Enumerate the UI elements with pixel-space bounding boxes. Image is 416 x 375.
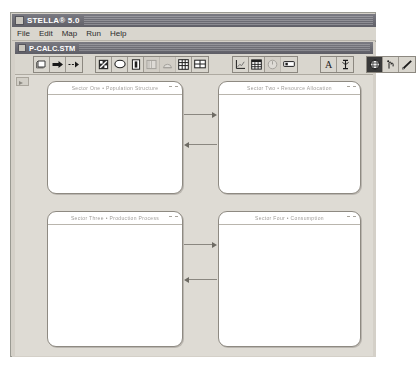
- sector-bottom-right-title: Sector Four • Consumption: [255, 216, 324, 221]
- menu-item-file[interactable]: File: [17, 30, 30, 38]
- sector-bottom-left-title: Sector Three • Production Process: [71, 216, 159, 221]
- sector-top-left[interactable]: Sector One • Population Structure: [47, 81, 183, 194]
- connector-bottom-forward-arrowhead: [212, 242, 217, 248]
- toolbar-group-object-tools: [95, 56, 209, 73]
- text-cursor-icon[interactable]: [337, 57, 353, 72]
- window-menu-button[interactable]: [15, 16, 24, 25]
- sector-top-right-handles[interactable]: [347, 86, 356, 87]
- menu-item-map[interactable]: Map: [62, 30, 78, 38]
- conveyor-icon[interactable]: [128, 57, 144, 72]
- sector-top-left-title: Sector One • Population Structure: [72, 86, 159, 91]
- queue-icon[interactable]: [144, 57, 160, 72]
- sector-bottom-right-body[interactable]: [219, 225, 360, 346]
- flow-arrow-icon[interactable]: [50, 57, 66, 72]
- sector-top-right-title: Sector Two • Resource Allocation: [247, 86, 332, 91]
- globe-hand-icon[interactable]: [367, 57, 383, 72]
- sector-top-right[interactable]: Sector Two • Resource Allocation: [218, 81, 361, 194]
- sector-bottom-left-handles[interactable]: [169, 216, 178, 217]
- connector-bottom-reverse[interactable]: [184, 276, 217, 283]
- connector-top-reverse[interactable]: [184, 141, 217, 148]
- oven-icon[interactable]: [160, 57, 176, 72]
- ruler-tab-icon[interactable]: [16, 77, 29, 86]
- document-menu-button[interactable]: [18, 44, 26, 52]
- sector-top-right-body[interactable]: [219, 95, 360, 193]
- hand-grab-icon[interactable]: [383, 57, 399, 72]
- toolbar-group-pointer-tools: [366, 56, 416, 73]
- document-window: P-CALC.STM: [12, 42, 376, 357]
- title-bar-texture: [84, 16, 373, 25]
- stock-icon[interactable]: [34, 57, 50, 72]
- sector-bottom-right-handles[interactable]: [347, 216, 356, 217]
- graph-pad-icon[interactable]: [233, 57, 249, 72]
- connector-top-forward-arrowhead: [212, 112, 217, 118]
- connector-top-reverse-shaft: [189, 144, 217, 145]
- menu-item-edit[interactable]: Edit: [39, 30, 53, 38]
- svg-text:A: A: [325, 59, 333, 70]
- toolbar-group-annotation-tools: A: [320, 56, 354, 73]
- sector-top-left-body[interactable]: [48, 95, 182, 193]
- menu-item-help[interactable]: Help: [110, 30, 126, 38]
- document-title: P-CALC.STM: [29, 44, 75, 53]
- table-pad-icon[interactable]: [249, 57, 265, 72]
- sector-top-left-handles[interactable]: [169, 86, 178, 87]
- connector-bottom-forward[interactable]: [184, 241, 217, 248]
- menu-bar: File Edit Map Run Help: [12, 27, 376, 41]
- text-tool-icon[interactable]: A: [321, 57, 337, 72]
- sector-frame-icon[interactable]: [96, 57, 112, 72]
- grid-icon[interactable]: [176, 57, 192, 72]
- application-window: STELLA® 5.0 File Edit Map Run Help P-CAL…: [10, 12, 376, 357]
- converter-oval-icon[interactable]: [112, 57, 128, 72]
- model-map-canvas[interactable]: Sector One • Population Structure Sector…: [15, 75, 373, 356]
- sector-top-left-header[interactable]: Sector One • Population Structure: [48, 82, 182, 95]
- sector-bottom-left-body[interactable]: [48, 225, 182, 346]
- sector-bottom-left-header[interactable]: Sector Three • Production Process: [48, 212, 182, 225]
- application-title-bar[interactable]: STELLA® 5.0: [12, 14, 376, 27]
- dial-knob-icon[interactable]: [265, 57, 281, 72]
- sector-bottom-left[interactable]: Sector Three • Production Process: [47, 211, 183, 347]
- document-title-bar[interactable]: P-CALC.STM: [15, 42, 373, 54]
- slider-icon[interactable]: [281, 57, 297, 72]
- toolbar: A: [15, 54, 373, 75]
- connector-top-forward-shaft: [184, 114, 212, 115]
- sector-bottom-right[interactable]: Sector Four • Consumption: [218, 211, 361, 347]
- sector-grid-icon[interactable]: [192, 57, 208, 72]
- connector-icon[interactable]: [66, 57, 82, 72]
- toolbar-group-display-tools: [232, 56, 298, 73]
- sector-bottom-right-header[interactable]: Sector Four • Consumption: [219, 212, 360, 225]
- menu-item-run[interactable]: Run: [86, 30, 101, 38]
- connector-top-forward[interactable]: [184, 111, 217, 118]
- application-title: STELLA® 5.0: [27, 16, 80, 25]
- pencil-icon[interactable]: [399, 57, 415, 72]
- sector-top-right-header[interactable]: Sector Two • Resource Allocation: [219, 82, 360, 95]
- connector-bottom-reverse-shaft: [189, 279, 217, 280]
- toolbar-group-structure-tools: [33, 56, 83, 73]
- document-title-bar-texture: [79, 44, 370, 52]
- connector-bottom-forward-shaft: [184, 244, 212, 245]
